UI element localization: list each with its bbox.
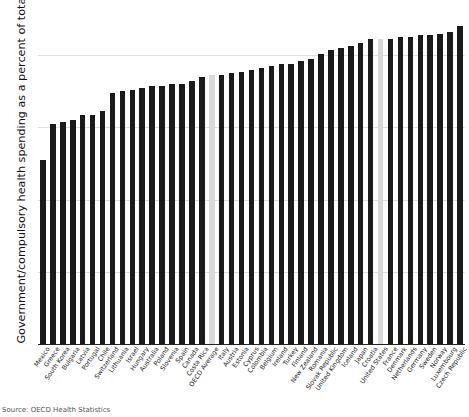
bar (80, 115, 86, 344)
bar (149, 86, 155, 344)
bar (139, 88, 145, 344)
bar (338, 48, 344, 344)
bar (239, 72, 245, 344)
bar (159, 86, 165, 344)
bar (418, 35, 424, 344)
bar (100, 111, 106, 344)
bar (358, 43, 364, 344)
bar (318, 54, 324, 345)
bar (70, 120, 76, 344)
bar (90, 115, 96, 344)
bar (40, 160, 46, 344)
bar (408, 37, 414, 344)
bar (388, 39, 394, 344)
bar (209, 75, 215, 344)
bar (447, 32, 453, 344)
plot-area (38, 12, 465, 344)
bar (229, 73, 235, 344)
bar (398, 37, 404, 344)
bar (348, 46, 354, 344)
bar (437, 34, 443, 344)
bar (457, 26, 463, 344)
bar (219, 75, 225, 344)
bar (110, 93, 116, 344)
bar (328, 50, 334, 344)
bar (199, 77, 205, 344)
bar (378, 39, 384, 344)
bar (279, 64, 285, 344)
bar (169, 84, 175, 344)
bar (60, 122, 66, 344)
bar (189, 81, 195, 344)
bar (179, 84, 185, 344)
bar (298, 61, 304, 344)
bar (249, 70, 255, 344)
bar (130, 90, 136, 344)
bar (427, 35, 433, 344)
bar (308, 59, 314, 344)
bar (288, 64, 294, 344)
x-axis-tick-labels: MexicoGreeceSouth KoreaBulgariaLatviaPor… (38, 346, 465, 406)
bar (120, 91, 126, 344)
chart-caption: Source: OECD Health Statistics (2, 406, 465, 417)
bar (50, 124, 56, 344)
y-axis-label: Government/compulsory health spending as… (16, 4, 27, 344)
bar (269, 66, 275, 344)
bar (368, 39, 374, 344)
bar (259, 68, 265, 344)
